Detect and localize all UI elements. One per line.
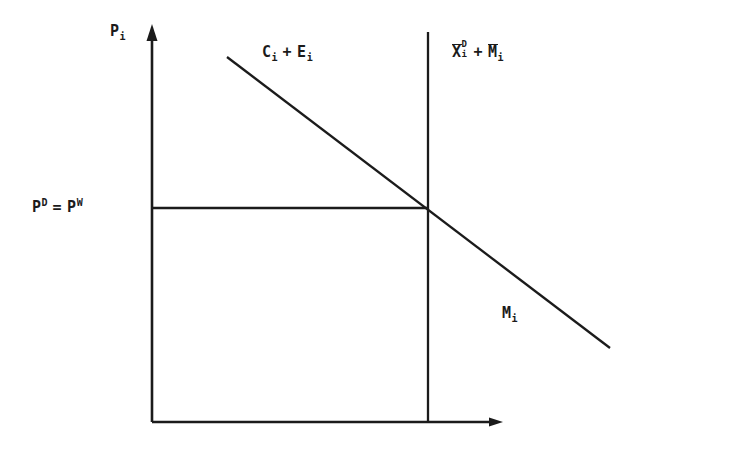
y-axis-label-subscript: i bbox=[120, 31, 126, 42]
demand-label-operator: + bbox=[278, 43, 298, 61]
demand-curve bbox=[227, 57, 610, 348]
price-label-tail: P bbox=[67, 198, 77, 216]
y-axis bbox=[147, 24, 158, 422]
supply-label-lead-subscript: i bbox=[462, 50, 468, 59]
price-label-tail-superscript: W bbox=[77, 197, 83, 208]
y-axis-label-main: P bbox=[110, 22, 120, 40]
price-label-lead: P bbox=[32, 198, 42, 216]
y-axis-label: Pi bbox=[110, 24, 126, 42]
x-axis bbox=[152, 418, 503, 427]
demand-curve-label: Ci+Ei bbox=[262, 45, 313, 63]
price-level-label: PD=PW bbox=[32, 198, 83, 215]
economics-diagram: Pi Ci+Ei XDi+Mi PD=PW Mi bbox=[0, 0, 730, 450]
demand-label-tail-subscript: i bbox=[307, 52, 313, 63]
price-label-lead-superscript: D bbox=[42, 197, 48, 208]
supply-label-tail: M bbox=[488, 44, 498, 61]
imports-label-subscript: i bbox=[512, 313, 518, 324]
supply-label-lead-superscript: D bbox=[462, 40, 468, 49]
demand-label-tail: E bbox=[297, 43, 307, 61]
imports-label-lead: M bbox=[502, 304, 512, 322]
supply-label-tail-subscript: i bbox=[498, 52, 504, 63]
price-label-operator: = bbox=[48, 198, 68, 216]
demand-label-lead-subscript: i bbox=[272, 52, 278, 63]
supply-label-lead: X bbox=[452, 44, 462, 61]
supply-line-label: XDi+Mi bbox=[452, 42, 504, 63]
diagram-canvas bbox=[0, 0, 730, 450]
supply-label-operator: + bbox=[469, 43, 489, 61]
supply-label-lead-scripts: Di bbox=[462, 42, 469, 57]
imports-label: Mi bbox=[502, 306, 518, 324]
demand-label-lead: C bbox=[262, 43, 272, 61]
